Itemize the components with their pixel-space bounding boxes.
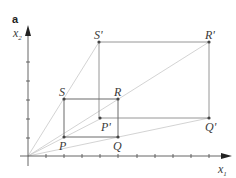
y-axis-arrow-icon [25,25,31,36]
diagram-canvas: a x2 x1 S R P Q P' Q' R' S' [0,0,236,178]
x-axis-label: x1 [217,162,227,178]
label-p: P [58,139,67,153]
label-s-prime: S' [94,28,103,42]
label-r: R [113,85,122,99]
x-axis-arrow-icon [221,153,232,159]
label-q: Q [113,139,122,153]
label-s: S [59,85,65,99]
panel-label: a [12,13,19,25]
label-p-prime: P' [100,120,111,134]
label-r-prime: R' [204,28,215,42]
y-axis-label: x2 [12,26,22,42]
transformed-rectangle [99,42,209,118]
label-q-prime: Q' [205,120,217,134]
